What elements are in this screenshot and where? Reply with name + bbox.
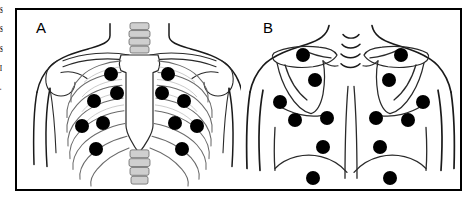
electrode-marker[interactable]: [316, 140, 330, 154]
panel-a-marker-layer: [17, 10, 241, 189]
electrode-marker[interactable]: [104, 67, 118, 81]
figure-frame: A: [15, 8, 462, 191]
caption-fragment-char: I: [0, 64, 2, 73]
electrode-marker[interactable]: [383, 171, 397, 185]
electrode-marker[interactable]: [190, 119, 204, 133]
electrode-marker[interactable]: [382, 73, 396, 87]
panel-a-anterior-chest: A: [17, 10, 241, 189]
electrode-marker[interactable]: [320, 111, 334, 125]
panel-b-marker-layer: [241, 10, 460, 189]
electrode-marker[interactable]: [96, 116, 110, 130]
electrode-marker[interactable]: [110, 86, 124, 100]
electrode-marker[interactable]: [175, 142, 189, 156]
electrode-marker[interactable]: [308, 73, 322, 87]
panel-b-posterior-back: B: [241, 10, 460, 189]
electrode-marker[interactable]: [416, 95, 430, 109]
electrode-marker[interactable]: [369, 111, 383, 125]
electrode-marker[interactable]: [161, 67, 175, 81]
electrode-marker[interactable]: [394, 48, 408, 62]
electrode-marker[interactable]: [87, 94, 101, 108]
caption-fragment-char: .: [0, 83, 1, 92]
cropped-caption-fragment: S S S I .: [0, 6, 12, 92]
electrode-marker[interactable]: [296, 48, 310, 62]
electrode-marker[interactable]: [75, 119, 89, 133]
caption-fragment-char: S: [0, 45, 3, 54]
electrode-marker[interactable]: [177, 94, 191, 108]
electrode-marker[interactable]: [89, 142, 103, 156]
electrode-marker[interactable]: [168, 116, 182, 130]
electrode-marker[interactable]: [306, 171, 320, 185]
electrode-marker[interactable]: [155, 86, 169, 100]
electrode-marker[interactable]: [373, 140, 387, 154]
electrode-marker[interactable]: [288, 113, 302, 127]
caption-fragment-char: S: [0, 6, 3, 15]
caption-fragment-char: S: [0, 25, 3, 34]
electrode-marker[interactable]: [401, 113, 415, 127]
figure-root: S S S I . A: [0, 0, 473, 209]
electrode-marker[interactable]: [273, 95, 287, 109]
